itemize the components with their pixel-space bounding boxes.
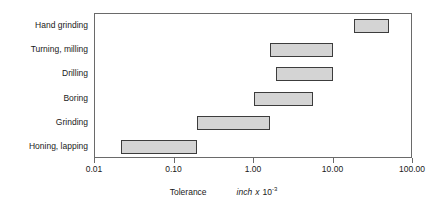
y-axis-label: Honing, lapping bbox=[29, 142, 88, 151]
y-axis-label: Turning, milling bbox=[31, 45, 88, 54]
x-axis-tick-label: 0.10 bbox=[165, 165, 182, 174]
x-axis-tick-label: 100.00 bbox=[399, 165, 425, 174]
plot-area bbox=[94, 13, 412, 158]
range-bar bbox=[121, 140, 197, 154]
x-axis-title: Toleranceinchx10-3 bbox=[0, 186, 447, 197]
x-axis-tick-label: 10.00 bbox=[322, 165, 343, 174]
x-axis-tick-mark bbox=[333, 158, 334, 163]
range-bar bbox=[197, 116, 271, 130]
tolerance-range-chart: Hand grindingTurning, millingDrillingBor… bbox=[0, 0, 447, 215]
y-axis-label: Grinding bbox=[56, 118, 88, 127]
x-axis-title-text: Tolerance bbox=[170, 187, 207, 197]
x-axis-multiply-symbol: x bbox=[255, 187, 259, 197]
range-bar bbox=[270, 43, 333, 57]
x-axis-tick-label: 1.00 bbox=[245, 165, 262, 174]
y-axis-label: Boring bbox=[63, 93, 88, 102]
x-axis-unit-italic: inch bbox=[237, 187, 253, 197]
x-axis-unit-group: inchx10-3 bbox=[237, 187, 278, 197]
x-axis-exponent: -3 bbox=[272, 186, 277, 192]
y-axis-label: Hand grinding bbox=[35, 21, 88, 30]
x-axis-tick-mark bbox=[94, 158, 95, 163]
range-bar bbox=[254, 92, 313, 106]
y-axis-category-labels: Hand grindingTurning, millingDrillingBor… bbox=[0, 13, 88, 158]
x-axis-tick-label: 0.01 bbox=[86, 165, 103, 174]
y-axis-label: Drilling bbox=[62, 69, 88, 78]
x-axis-base: 10 bbox=[262, 187, 271, 197]
range-bar bbox=[276, 67, 333, 81]
x-axis-tick-mark bbox=[174, 158, 175, 163]
x-axis-tick-mark bbox=[412, 158, 413, 163]
range-bar bbox=[354, 19, 389, 33]
x-axis-tick-mark bbox=[253, 158, 254, 163]
